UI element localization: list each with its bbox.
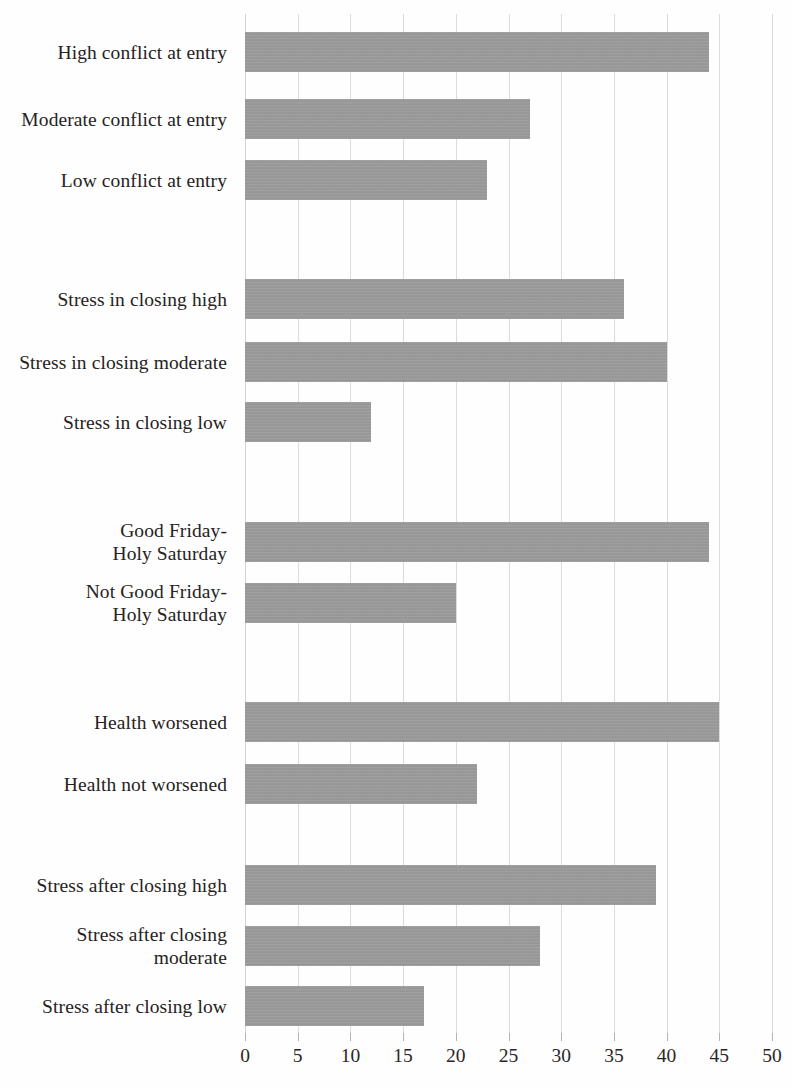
category-label: High conflict at entry [0, 41, 236, 64]
x-tick-label: 15 [393, 1045, 413, 1067]
category-label: Health worsened [0, 711, 236, 734]
x-tick-mark [403, 1033, 404, 1041]
x-tick-label: 50 [762, 1045, 782, 1067]
bar [245, 32, 709, 72]
gridline-50 [772, 14, 773, 1033]
bar [245, 926, 540, 966]
x-tick-label: 45 [710, 1045, 730, 1067]
bar [245, 279, 624, 319]
x-tick-label: 5 [293, 1045, 303, 1067]
x-tick-mark [509, 1033, 510, 1041]
x-tick-mark [245, 1033, 246, 1041]
category-label: Not Good Friday- Holy Saturday [0, 580, 236, 626]
bar [245, 402, 371, 442]
bar [245, 522, 709, 562]
category-axis-labels: High conflict at entryModerate conflict … [0, 14, 236, 1033]
bar-row [245, 702, 772, 742]
bar-chart: High conflict at entryModerate conflict … [0, 0, 792, 1088]
bar [245, 986, 424, 1026]
x-tick-mark [772, 1033, 773, 1041]
bar-rows [245, 14, 772, 1033]
x-tick-mark [667, 1033, 668, 1041]
bar [245, 160, 487, 200]
category-label: Health not worsened [0, 773, 236, 796]
bar-row [245, 342, 772, 382]
bar-row [245, 402, 772, 442]
bar-row [245, 32, 772, 72]
category-label: Moderate conflict at entry [0, 108, 236, 131]
x-tick-mark [561, 1033, 562, 1041]
category-label: Stress in closing moderate [0, 351, 236, 374]
category-label: Stress after closing low [0, 995, 236, 1018]
bar-row [245, 926, 772, 966]
category-label: Stress after closing high [0, 874, 236, 897]
x-tick-label: 10 [341, 1045, 361, 1067]
x-tick-label: 40 [657, 1045, 677, 1067]
bar [245, 865, 656, 905]
category-label: Stress in closing high [0, 288, 236, 311]
bar [245, 583, 456, 623]
x-tick-label: 25 [499, 1045, 519, 1067]
bar [245, 764, 477, 804]
category-label: Stress in closing low [0, 411, 236, 434]
x-tick-label: 20 [446, 1045, 466, 1067]
category-label: Low conflict at entry [0, 169, 236, 192]
bar-row [245, 865, 772, 905]
x-tick-mark [298, 1033, 299, 1041]
category-label: Good Friday- Holy Saturday [0, 519, 236, 565]
bar [245, 702, 719, 742]
bar-row [245, 764, 772, 804]
plot-area [245, 14, 772, 1033]
category-label: Stress after closing moderate [0, 923, 236, 969]
x-tick-label: 0 [240, 1045, 250, 1067]
bar-row [245, 522, 772, 562]
bar [245, 342, 667, 382]
bar-row [245, 583, 772, 623]
bar-row [245, 986, 772, 1026]
bar-row [245, 99, 772, 139]
x-tick-label: 30 [551, 1045, 571, 1067]
x-axis: 05101520253035404550 [245, 1033, 772, 1083]
x-tick-mark [456, 1033, 457, 1041]
bar-row [245, 279, 772, 319]
x-tick-mark [350, 1033, 351, 1041]
x-tick-label: 35 [604, 1045, 624, 1067]
bar [245, 99, 530, 139]
x-tick-mark [614, 1033, 615, 1041]
x-tick-mark [719, 1033, 720, 1041]
bar-row [245, 160, 772, 200]
